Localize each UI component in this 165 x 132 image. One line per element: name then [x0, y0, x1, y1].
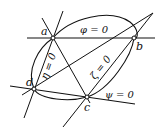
label-eta: η = 0	[39, 51, 59, 81]
label-b: b	[136, 40, 143, 53]
label-d: d	[26, 76, 33, 89]
point-c	[85, 95, 89, 99]
label-psi: ψ = 0	[105, 89, 135, 100]
label-c: c	[84, 101, 90, 114]
point-a	[51, 36, 55, 40]
label-a: a	[41, 25, 48, 38]
conic-diagram: a b c d φ = 0 ψ = 0 η = 0 ζ = 0	[0, 0, 165, 132]
label-zeta: ζ = 0	[88, 53, 113, 81]
label-phi: φ = 0	[80, 24, 109, 35]
